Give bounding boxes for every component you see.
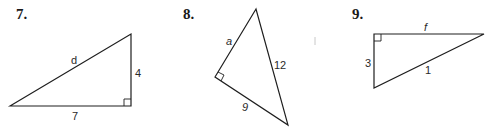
hypotenuse-label-9: 1: [425, 64, 431, 76]
vertical-leg-label-7: 4: [135, 67, 141, 79]
problem-7: 7. d 4 7: [10, 6, 141, 122]
problem-number-7: 7.: [16, 6, 28, 22]
worksheet-canvas: 7. d 4 7 8. a 12 9 9. f 3 1: [0, 0, 494, 139]
right-angle-marker-9: [374, 34, 381, 41]
triangle-7: [10, 34, 131, 106]
problem-number-8: 8.: [183, 6, 195, 22]
problem-number-9: 9.: [352, 6, 364, 22]
top-leg-label-9: f: [424, 21, 428, 33]
problem-9: 9. f 3 1: [352, 6, 484, 88]
vertical-leg-label-9: 3: [365, 57, 371, 69]
upper-leg-label-8: a: [226, 35, 232, 47]
horizontal-leg-label-7: 7: [72, 110, 78, 122]
problem-8: 8. a 12 9: [183, 6, 288, 125]
hypotenuse-label-7: d: [71, 54, 77, 66]
right-angle-marker-7: [124, 99, 131, 106]
triangle-9: [374, 34, 484, 88]
hypotenuse-label-8: 12: [274, 59, 286, 71]
lower-leg-label-8: 9: [242, 101, 248, 113]
